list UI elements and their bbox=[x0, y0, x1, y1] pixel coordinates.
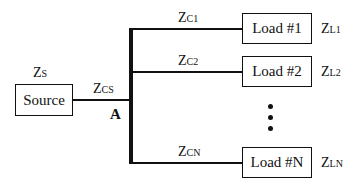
load-label-2: Load #2 bbox=[252, 63, 302, 80]
cable-line-1 bbox=[131, 28, 242, 30]
cable-impedance-label-n: ZCN bbox=[178, 145, 200, 159]
cable-line-n bbox=[131, 162, 242, 164]
bus-bar bbox=[129, 28, 133, 164]
load-box-n: Load #N bbox=[242, 147, 312, 178]
load-box-1: Load #1 bbox=[242, 13, 312, 44]
load-label-n: Load #N bbox=[251, 154, 304, 171]
node-a-label: A bbox=[110, 107, 121, 122]
ellipsis-dot-1 bbox=[268, 104, 273, 109]
source-box: Source bbox=[15, 84, 73, 116]
ellipsis-dot-3 bbox=[268, 126, 273, 131]
cable-line-2 bbox=[131, 71, 242, 73]
source-cable-impedance-label: ZCS bbox=[93, 82, 114, 96]
source-label: Source bbox=[23, 92, 65, 109]
load-impedance-label-n: ZLN bbox=[321, 156, 343, 170]
load-label-1: Load #1 bbox=[252, 20, 302, 37]
ellipsis-dot-2 bbox=[268, 115, 273, 120]
source-impedance-label: ZS bbox=[33, 66, 47, 80]
load-impedance-label-1: ZL1 bbox=[321, 22, 341, 36]
source-cable-line bbox=[73, 99, 131, 101]
cable-impedance-label-2: ZC2 bbox=[178, 54, 198, 68]
load-impedance-label-2: ZL2 bbox=[321, 65, 341, 79]
cable-impedance-label-1: ZC1 bbox=[178, 11, 198, 25]
load-box-2: Load #2 bbox=[242, 56, 312, 87]
